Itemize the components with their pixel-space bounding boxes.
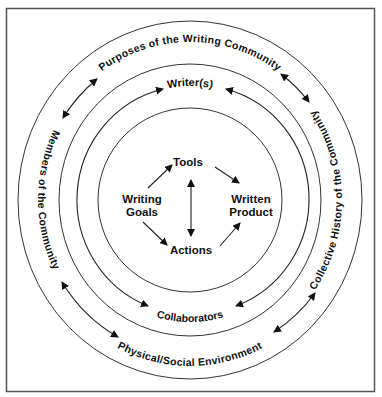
- label-written-product-line2: Product: [229, 206, 273, 218]
- label-collaborators: Collaborators: [156, 307, 225, 324]
- label-tools: Tools: [173, 156, 203, 168]
- label-actions: Actions: [170, 244, 212, 256]
- outer-ring: [18, 21, 362, 379]
- diagram-canvas: Purposes of the Writing Community Member…: [0, 0, 382, 397]
- label-writers: Writer(s): [166, 76, 215, 90]
- label-history: Collective History of the Community: [306, 109, 344, 292]
- label-writing-goals-line1: Writing: [122, 193, 161, 205]
- label-writing-goals-line2: Goals: [126, 206, 158, 218]
- arrow-tools-to-product: [215, 167, 239, 183]
- arrow-actions-to-product: [220, 223, 240, 246]
- arrow-purposes-members: [63, 79, 97, 118]
- label-written-product-line1: Written: [231, 193, 270, 205]
- arrow-goals-to-tools: [148, 165, 172, 188]
- label-environment: Physical/Social Environment: [116, 339, 264, 368]
- arrow-goals-to-actions: [143, 222, 167, 245]
- label-purposes: Purposes of the Writing Community: [96, 32, 284, 73]
- arrow-purposes-history: [281, 74, 309, 102]
